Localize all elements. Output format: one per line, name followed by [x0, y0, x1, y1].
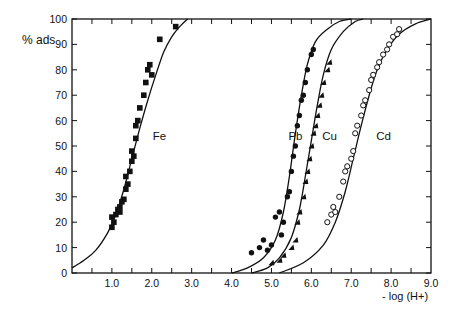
dot-marker [285, 194, 290, 199]
open-circle-marker [363, 98, 368, 103]
dot-marker [287, 189, 292, 194]
series-pb: Pb [232, 19, 352, 273]
y-tick-label: 100 [49, 13, 67, 25]
plot-frame [72, 19, 431, 273]
series-label: Fe [153, 130, 166, 142]
x-tick-label: 7.0 [344, 277, 359, 289]
x-tick-label: 3.0 [184, 277, 199, 289]
square-marker [147, 62, 153, 68]
open-circle-marker [385, 47, 390, 52]
open-circle-marker [325, 220, 330, 225]
square-marker [141, 92, 147, 98]
x-tick-label: 6.0 [304, 277, 319, 289]
open-circle-marker [381, 52, 386, 57]
dot-marker [273, 214, 278, 219]
open-circle-marker [341, 179, 346, 184]
series-cd: Cd [279, 19, 431, 273]
x-tick-label: 5.0 [264, 277, 279, 289]
series-fe: Fe [72, 19, 188, 268]
open-circle-marker [345, 164, 350, 169]
square-marker [127, 169, 133, 175]
dot-marker [299, 98, 304, 103]
open-circle-marker [394, 32, 399, 37]
x-axis-label: - log (H+) [382, 290, 428, 302]
y-tick-label: 30 [55, 191, 67, 203]
y-tick-label: 70 [55, 89, 67, 101]
dot-marker [289, 169, 294, 174]
dot-marker [309, 52, 314, 57]
dot-marker [277, 209, 282, 214]
square-marker [157, 37, 163, 43]
open-circle-marker [333, 209, 338, 214]
square-marker [135, 118, 141, 124]
square-marker [129, 148, 135, 154]
series-label: Pb [288, 130, 302, 142]
open-circle-marker [375, 65, 380, 70]
square-marker [133, 136, 139, 142]
square-marker [117, 204, 123, 210]
dot-marker [257, 245, 262, 250]
open-circle-marker [355, 123, 360, 128]
triangle-marker [268, 260, 274, 266]
open-circle-marker [377, 60, 382, 65]
y-tick-label: 10 [55, 242, 67, 254]
dot-marker [295, 123, 300, 128]
y-axis-label: % ads [22, 33, 55, 47]
y-tick-label: 80 [55, 64, 67, 76]
y-tick-label: 40 [55, 165, 67, 177]
open-circle-marker [343, 169, 348, 174]
open-circle-marker [371, 72, 376, 77]
dot-marker [269, 242, 274, 247]
open-circle-marker [331, 204, 336, 209]
dot-marker [301, 93, 306, 98]
open-circle-marker [337, 194, 342, 199]
square-marker [111, 219, 117, 225]
triangle-marker [292, 237, 298, 243]
y-tick-label: 0 [61, 267, 67, 279]
open-circle-marker [369, 77, 374, 82]
open-circle-marker [349, 156, 354, 161]
series-label: Cd [376, 130, 391, 142]
adsorption-chart: 1.02.03.04.05.06.07.08.09.00102030405060… [0, 0, 455, 310]
fit-curve [232, 19, 352, 273]
triangle-marker [288, 245, 294, 251]
square-marker [137, 105, 143, 111]
dot-marker [293, 143, 298, 148]
triangle-marker [300, 194, 306, 200]
y-tick-label: 20 [55, 216, 67, 228]
series-cu: Cu [252, 19, 364, 273]
square-marker [133, 123, 139, 129]
open-circle-marker [361, 103, 366, 108]
y-tick-label: 60 [55, 115, 67, 127]
y-tick-label: 90 [55, 38, 67, 50]
dot-marker [249, 250, 254, 255]
dot-marker [265, 247, 270, 252]
y-tick-label: 50 [55, 140, 67, 152]
dot-marker [261, 237, 266, 242]
dot-marker [281, 220, 286, 225]
square-marker [143, 80, 149, 86]
open-circle-marker [387, 42, 392, 47]
square-marker [123, 186, 129, 192]
dot-marker [279, 232, 284, 237]
series-label: Cu [322, 130, 337, 142]
open-circle-marker [351, 148, 356, 153]
square-marker [173, 24, 179, 30]
square-marker [125, 181, 131, 187]
x-tick-label: 8.0 [384, 277, 399, 289]
open-circle-marker [359, 113, 364, 118]
triangle-marker [304, 168, 310, 174]
open-circle-marker [367, 88, 372, 93]
fit-curve [252, 19, 364, 273]
square-marker [145, 67, 151, 73]
square-marker [129, 158, 135, 164]
open-circle-marker [396, 27, 401, 32]
dot-marker [297, 113, 302, 118]
fit-curve [72, 19, 188, 268]
square-marker [149, 72, 155, 78]
square-marker [131, 153, 137, 159]
x-tick-label: 9.0 [424, 277, 439, 289]
x-tick-label: 1.0 [105, 277, 120, 289]
square-marker [123, 174, 129, 180]
x-tick-label: 4.0 [224, 277, 239, 289]
